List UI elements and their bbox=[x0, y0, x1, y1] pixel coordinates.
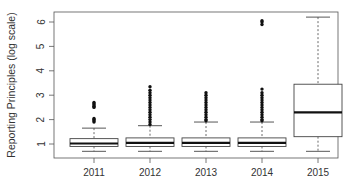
x-tick-label: 2014 bbox=[251, 167, 274, 178]
y-axis-label: Reporting Principles (log scale) bbox=[5, 12, 17, 157]
y-tick-label: 5 bbox=[36, 43, 47, 49]
x-tick-label: 2015 bbox=[307, 167, 330, 178]
box bbox=[294, 84, 342, 136]
y-tick-label: 4 bbox=[36, 68, 47, 74]
outlier-point bbox=[92, 101, 95, 104]
outlier-point bbox=[260, 19, 263, 22]
x-tick-label: 2011 bbox=[83, 167, 105, 178]
y-tick-label: 1 bbox=[36, 141, 47, 147]
outlier-point bbox=[148, 85, 151, 88]
y-tick-label: 2 bbox=[36, 116, 47, 122]
x-tick-label: 2013 bbox=[195, 167, 218, 178]
plot-area: 12345620112012201320142015 bbox=[36, 12, 343, 178]
outlier-point bbox=[92, 117, 95, 120]
outlier-point bbox=[260, 87, 263, 90]
outlier-point bbox=[204, 91, 207, 94]
outlier-point bbox=[148, 89, 151, 92]
boxplot-chart: 12345620112012201320142015 Reporting Pri… bbox=[0, 0, 347, 190]
outlier-point bbox=[260, 91, 263, 94]
x-tick-label: 2012 bbox=[139, 167, 162, 178]
y-tick-label: 3 bbox=[36, 92, 47, 98]
y-tick-label: 6 bbox=[36, 19, 47, 25]
